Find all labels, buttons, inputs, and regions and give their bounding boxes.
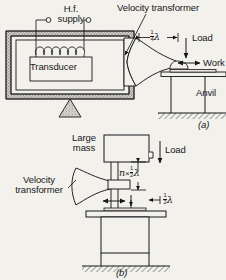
hf-supply-line2: supply: [58, 13, 85, 24]
large-mass-notch: [149, 152, 153, 158]
transducer-label: Transducer: [30, 62, 77, 72]
velocity-transformer-label-b: Velocity transformer: [8, 175, 70, 195]
large-mass-label: Large mass: [64, 133, 104, 153]
velocity-transformer-taper-a: [127, 38, 176, 86]
figure-canvas: H.f. supply Transducer Velocity transfor…: [0, 0, 226, 280]
large-mass-block: [104, 135, 149, 162]
ground-hatching-a: [158, 113, 226, 119]
dim-half-lambda-text-b: 1 2 λ: [163, 193, 173, 205]
pivot-triangle-icon: [59, 99, 81, 117]
anvil-label: Anvil: [196, 88, 216, 98]
caption-a: (a): [198, 120, 209, 130]
lambda-symbol-a: λ: [154, 31, 160, 42]
caption-b: (b): [116, 268, 127, 278]
load-label-b: Load: [165, 145, 186, 155]
tool-tip-a: [170, 61, 188, 69]
velocity-transformer-b-line2: transformer: [15, 184, 62, 195]
velocity-transformer-label-a: Velocity transformer: [117, 3, 199, 13]
large-mass-line2: mass: [73, 142, 95, 153]
dim-quarter-lambda-text-a: 1 4 λ: [150, 30, 160, 42]
work-label: Work: [203, 58, 225, 68]
work-table-b: [86, 208, 166, 266]
velocity-transformer-horn-b: [72, 168, 110, 205]
lambda-symbol-b1: λ: [133, 167, 139, 178]
dim-half-lambda-b: [131, 196, 160, 208]
dim-n-half-lambda-text: n× 1 2 λ: [119, 166, 140, 179]
transverse-arrows-b: [103, 195, 131, 206]
lambda-symbol-b2: λ: [167, 194, 173, 205]
load-label-a: Load: [192, 33, 213, 43]
hf-supply-label: H.f. supply: [50, 4, 92, 24]
figure-b: [68, 135, 170, 272]
node-collar-b: [108, 180, 130, 189]
anvil-assembly-a: [161, 70, 226, 114]
